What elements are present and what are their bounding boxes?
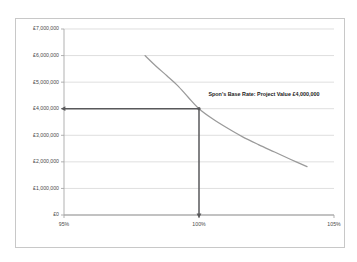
x-tick-labels: 95%100%105% [59,221,341,227]
y-tick-label: £4,000,000 [33,105,59,111]
project-value-curve [145,56,307,167]
x-tick-label: 105% [327,221,341,227]
base-rate-annotation: Spon's Base Rate: Project Value £4,000,0… [208,91,319,97]
y-tick-label: £7,000,000 [33,25,59,31]
y-tick-label: £5,000,000 [33,79,59,85]
y-tick-label: £2,000,000 [33,158,59,164]
value-guide-vertical-arrowhead [197,214,202,219]
y-tick-label: £3,000,000 [33,132,59,138]
y-tick-label: £6,000,000 [33,52,59,58]
y-tick-label: £0 [53,211,59,217]
y-tick-label: £1,000,000 [33,185,59,191]
project-value-chart: £7,000,000£6,000,000£5,000,000£4,000,000… [16,19,344,247]
value-guide-horizontal-arrowhead [61,106,66,111]
x-tick-label: 100% [192,221,206,227]
chart-frame: £7,000,000£6,000,000£5,000,000£4,000,000… [15,18,345,248]
indicator-lines [61,106,202,218]
y-tick-labels: £7,000,000£6,000,000£5,000,000£4,000,000… [33,25,64,217]
x-tick-label: 95% [59,221,70,227]
intersection-marker [197,107,200,110]
